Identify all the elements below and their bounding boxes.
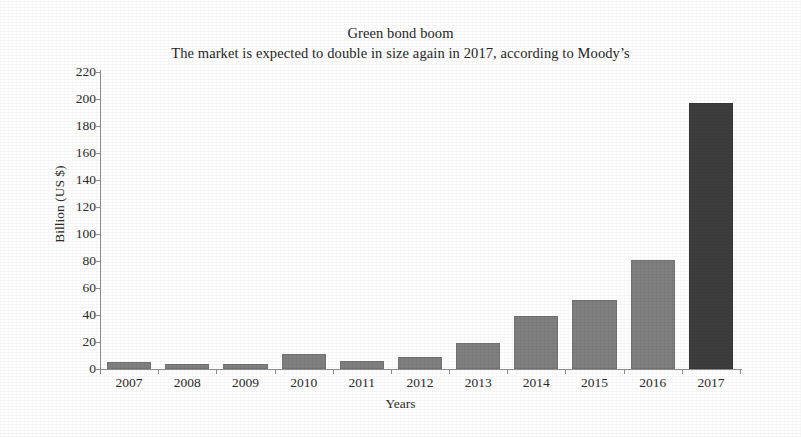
x-tick-label: 2009 — [232, 375, 259, 391]
y-tick-label: 120 — [0, 199, 96, 215]
x-tick-mark — [333, 369, 334, 374]
bar-slot — [223, 72, 267, 369]
y-tick-label: 60 — [0, 280, 96, 296]
y-tick-label: 40 — [0, 307, 96, 323]
bar-2011 — [340, 361, 384, 369]
chart-title-block: Green bond boom The market is expected t… — [0, 24, 801, 63]
x-tick-mark — [624, 369, 625, 374]
y-tick-label: 80 — [0, 253, 96, 269]
bar-2014 — [514, 316, 558, 369]
x-tick-mark — [449, 369, 450, 374]
y-tick-label: 180 — [0, 118, 96, 134]
x-tick-label: 2016 — [639, 375, 666, 391]
x-tick-mark — [275, 369, 276, 374]
bar-slot — [282, 72, 326, 369]
bar-slot — [398, 72, 442, 369]
bar-chart-figure: Green bond boom The market is expected t… — [0, 0, 801, 437]
bar-slot — [456, 72, 500, 369]
bar-slot — [631, 72, 675, 369]
bar-slot — [165, 72, 209, 369]
x-axis-title: Years — [0, 396, 801, 412]
bar-slot — [689, 72, 733, 369]
x-tick-mark — [100, 369, 101, 374]
y-tick-label: 100 — [0, 226, 96, 242]
x-tick-label: 2010 — [290, 375, 317, 391]
bar-2007 — [107, 362, 151, 369]
bar-slot — [572, 72, 616, 369]
x-tick-mark — [158, 369, 159, 374]
x-tick-label: 2014 — [523, 375, 550, 391]
x-tick-label: 2013 — [465, 375, 492, 391]
y-tick-label: 220 — [0, 64, 96, 80]
bar-slot — [107, 72, 151, 369]
y-tick-label: 20 — [0, 334, 96, 350]
x-tick-label: 2012 — [407, 375, 434, 391]
x-tick-label: 2015 — [581, 375, 608, 391]
bar-2012 — [398, 357, 442, 369]
y-tick-label: 140 — [0, 172, 96, 188]
x-tick-mark — [391, 369, 392, 374]
x-tick-label: 2017 — [697, 375, 724, 391]
x-tick-mark — [216, 369, 217, 374]
bar-slot — [340, 72, 384, 369]
bar-2015 — [572, 300, 616, 369]
bar-2013 — [456, 343, 500, 369]
x-tick-mark — [565, 369, 566, 374]
x-tick-mark — [682, 369, 683, 374]
bar-2008 — [165, 364, 209, 369]
x-axis-line — [98, 369, 742, 370]
bar-2016 — [631, 260, 675, 369]
x-tick-mark — [507, 369, 508, 374]
x-tick-mark — [740, 369, 741, 374]
bar-2009 — [223, 364, 267, 369]
y-tick-label: 160 — [0, 145, 96, 161]
x-tick-label: 2011 — [349, 375, 376, 391]
x-tick-label: 2007 — [116, 375, 143, 391]
chart-title: Green bond boom — [0, 24, 801, 44]
bars-layer — [100, 72, 740, 369]
chart-subtitle: The market is expected to double in size… — [0, 44, 801, 64]
y-tick-label: 200 — [0, 91, 96, 107]
bar-2017 — [689, 103, 733, 369]
bar-slot — [514, 72, 558, 369]
y-tick-label: 0 — [0, 361, 96, 377]
bar-2010 — [282, 354, 326, 369]
x-tick-label: 2008 — [174, 375, 201, 391]
